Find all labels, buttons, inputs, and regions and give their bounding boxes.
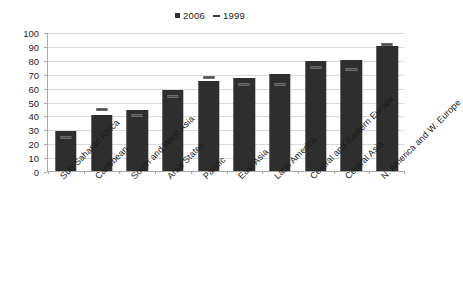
y-axis-tick [44, 172, 47, 173]
plot-area [47, 33, 404, 172]
y-axis-tick-label: 50 [28, 97, 39, 108]
y-axis: 1009080706050403020100 [0, 33, 44, 172]
legend-label-2006: 2006 [183, 10, 205, 21]
bar-group [48, 33, 404, 171]
y-axis-tick-label: 60 [28, 83, 39, 94]
bar-slot[interactable] [48, 33, 84, 171]
y-axis-tick-label: 80 [28, 55, 39, 66]
y-axis-tick-label: 40 [28, 111, 39, 122]
y-axis-tick-label: 30 [28, 125, 39, 136]
square-marker-icon [175, 13, 180, 18]
chart-legend: 2006 1999 [0, 10, 420, 21]
legend-item-1999: 1999 [213, 10, 245, 21]
value-marker-1999 [60, 136, 71, 139]
value-marker-1999 [310, 66, 321, 69]
bar[interactable] [269, 74, 290, 171]
bar[interactable] [305, 61, 326, 171]
value-marker-1999 [203, 76, 214, 79]
value-marker-1999 [346, 68, 357, 71]
y-axis-tick-label: 0 [34, 167, 39, 178]
legend-label-1999: 1999 [223, 10, 245, 21]
value-marker-1999 [132, 114, 143, 117]
y-axis-tick-label: 20 [28, 139, 39, 150]
value-marker-1999 [239, 83, 250, 86]
y-axis-tick-label: 90 [28, 41, 39, 52]
value-marker-1999 [167, 95, 178, 98]
x-axis-labels: Sub-Saharan AfricaCaribbeanSouth and Wes… [47, 174, 404, 289]
y-axis-tick-label: 100 [23, 28, 39, 39]
y-axis-tick-label: 10 [28, 153, 39, 164]
value-marker-1999 [96, 108, 107, 111]
value-marker-1999 [274, 83, 285, 86]
bar-slot[interactable] [227, 33, 263, 171]
value-marker-1999 [382, 43, 393, 46]
bar[interactable] [341, 60, 362, 171]
legend-item-2006: 2006 [175, 10, 205, 21]
x-axis-tick [404, 171, 405, 174]
y-axis-tick-label: 70 [28, 69, 39, 80]
dash-marker-icon [213, 15, 220, 17]
